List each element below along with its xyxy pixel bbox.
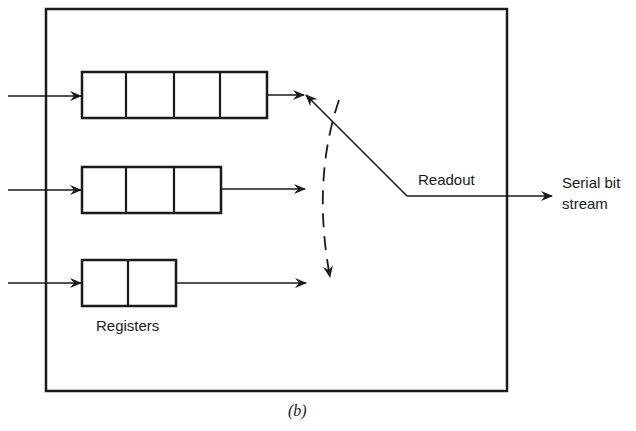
diagram-canvas: Registers Readout Serial bit stream (b) [0,0,636,431]
serial-bit-stream-label-line1: Serial bit [562,174,621,191]
figure-caption: (b) [288,402,307,420]
readout-label: Readout [418,171,476,188]
register-1 [82,72,267,118]
serial-bit-stream-label-line2: stream [562,195,608,212]
register-2 [82,167,221,213]
readout-switch-arm [306,95,407,196]
registers-label: Registers [96,317,159,334]
register-3 [82,260,176,306]
